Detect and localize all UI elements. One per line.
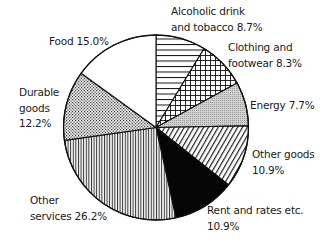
- slice-label-line: 12.2%: [19, 116, 59, 132]
- slice-label-line: goods: [19, 101, 59, 117]
- slice-label-line: services 26.2%: [30, 209, 107, 225]
- slice-label: Food 15.0%: [49, 34, 109, 50]
- slice-label-line: Energy 7.7%: [250, 98, 315, 114]
- slice-label-line: and tobacco 8.7%: [171, 20, 263, 36]
- slice-label: Other goods10.9%: [252, 147, 315, 178]
- slice-label-line: 10.9%: [207, 219, 304, 235]
- slice-label-line: 10.9%: [252, 163, 315, 179]
- slice-label-line: Durable: [19, 85, 59, 101]
- slice-label: Energy 7.7%: [250, 98, 315, 114]
- slice-label: Durablegoods12.2%: [19, 85, 59, 132]
- slice-label-line: footwear 8.3%: [228, 56, 302, 72]
- slice-label-line: Clothing and: [228, 40, 302, 56]
- slice-label: Rent and rates etc.10.9%: [207, 203, 304, 234]
- slice-label: Alcoholic drinkand tobacco 8.7%: [171, 4, 263, 35]
- slice-label-line: Food 15.0%: [49, 34, 109, 50]
- slice-label: Otherservices 26.2%: [30, 193, 107, 224]
- slice-label: Clothing andfootwear 8.3%: [228, 40, 302, 71]
- slice-label-line: Rent and rates etc.: [207, 203, 304, 219]
- slice-label-line: Alcoholic drink: [171, 4, 263, 20]
- slice-label-line: Other: [30, 193, 107, 209]
- slice-label-line: Other goods: [252, 147, 315, 163]
